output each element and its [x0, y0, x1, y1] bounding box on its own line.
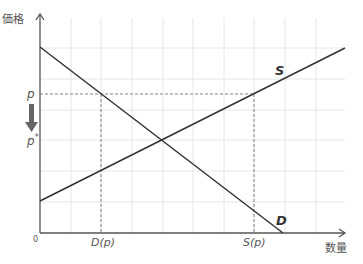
p-label: p [26, 87, 35, 101]
price-drop-arrow-icon [25, 104, 38, 132]
x-axis-label: 数量 [325, 242, 347, 255]
supply-demand-chart: 価格 数量 0 p p* D(p) S(p) S D [0, 0, 363, 264]
origin-label: 0 [33, 235, 38, 244]
p-star-label: p* [26, 133, 39, 148]
y-axis-label: 価格 [2, 12, 24, 26]
d-curve-label: D [276, 213, 287, 228]
s-curve-label: S [275, 63, 284, 78]
dashed-guides [40, 94, 254, 233]
d-of-p-label: D(p) [91, 236, 115, 249]
grid [40, 18, 345, 233]
s-of-p-label: S(p) [243, 236, 266, 249]
